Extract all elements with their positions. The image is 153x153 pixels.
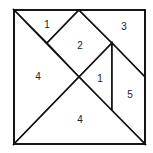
piece-label: 3 — [121, 21, 127, 32]
piece-label: 5 — [127, 89, 133, 100]
piece-label: 2 — [77, 40, 83, 51]
tangram-diagram: 1234154 — [0, 0, 153, 153]
piece-label: 4 — [35, 71, 41, 82]
piece-label: 1 — [97, 73, 103, 84]
piece-label: 4 — [77, 114, 83, 125]
piece-label: 1 — [44, 19, 50, 30]
